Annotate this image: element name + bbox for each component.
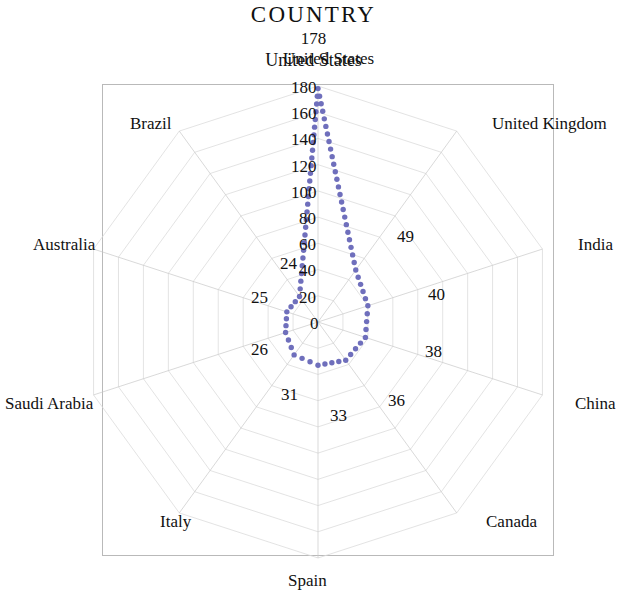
radial-tick-label: 160: [291, 105, 317, 122]
data-point-dot: [325, 131, 330, 136]
data-point-dot: [293, 299, 298, 304]
data-value-label: 49: [397, 228, 414, 245]
data-point-dot: [365, 311, 370, 316]
data-point-dot: [315, 363, 320, 368]
radial-tick-label: 180: [291, 79, 317, 96]
axis-category-label: Spain: [288, 572, 327, 589]
data-point-dot: [326, 139, 331, 144]
radial-tick-label: 40: [299, 262, 316, 279]
axis-category-label: Brazil: [130, 115, 172, 132]
radial-tick-label: 120: [291, 158, 317, 175]
data-point-dot: [355, 274, 360, 279]
data-point-dot: [353, 346, 358, 351]
data-point-dot: [360, 289, 365, 294]
data-point-dot: [343, 357, 348, 362]
radial-tick-label: 140: [291, 131, 317, 148]
radial-tick-label: 20: [299, 289, 316, 306]
axis-category-label: Australia: [33, 236, 95, 253]
radial-tick-label: 60: [299, 236, 316, 253]
data-value-label: 24: [280, 255, 297, 272]
data-point-dot: [363, 327, 368, 332]
data-point-dot: [334, 177, 339, 182]
axis-category-label: Saudi Arabia: [5, 395, 93, 412]
data-point-dot: [350, 252, 355, 257]
data-point-dot: [307, 359, 312, 364]
data-point-dot: [329, 154, 334, 159]
data-point-dot: [348, 352, 353, 357]
data-point-dot: [353, 267, 358, 272]
data-value-label: 25: [251, 289, 268, 306]
data-point-dot: [283, 330, 288, 335]
data-point-dot: [284, 309, 289, 314]
axis-spoke: [179, 322, 318, 513]
data-point-dot: [342, 214, 347, 219]
axis-category-label: United Kingdom: [492, 115, 607, 132]
radar-chart: COUNTRY 178 United States United StatesU…: [0, 0, 627, 598]
data-point-dot: [331, 162, 336, 167]
data-value-label: 31: [281, 386, 298, 403]
data-point-dot: [322, 361, 327, 366]
data-value-label: 26: [251, 341, 268, 358]
axis-category-label: China: [575, 395, 616, 412]
data-point-dot: [289, 345, 294, 350]
data-point-dot: [344, 222, 349, 227]
axis-category-label: India: [578, 236, 613, 253]
radial-tick-label: 100: [291, 184, 317, 201]
data-point-dot: [329, 360, 334, 365]
data-point-dot: [358, 340, 363, 345]
data-value-label: 33: [330, 407, 347, 424]
data-point-dot: [363, 296, 368, 301]
data-series-dotted-line: [283, 86, 371, 368]
data-point-dot: [347, 237, 352, 242]
data-point-dot: [337, 192, 342, 197]
data-point-dot: [333, 169, 338, 174]
axis-category-label: Italy: [160, 513, 191, 530]
data-point-dot: [305, 201, 310, 206]
data-point-dot: [336, 359, 341, 364]
data-point-dot: [351, 260, 356, 265]
axis-category-label: Canada: [486, 513, 537, 530]
data-point-dot: [291, 352, 296, 357]
data-point-dot: [300, 255, 305, 260]
data-point-dot: [339, 199, 344, 204]
data-point-dot: [299, 356, 304, 361]
data-value-label: 36: [388, 392, 405, 409]
data-point-dot: [328, 146, 333, 151]
data-point-dot: [336, 184, 341, 189]
data-point-dot: [358, 282, 363, 287]
data-point-dot: [345, 230, 350, 235]
data-point-dot: [340, 207, 345, 212]
radial-tick-label: 0: [310, 315, 319, 332]
data-point-dot: [320, 109, 325, 114]
data-point-dot: [364, 319, 369, 324]
data-point-dot: [284, 316, 289, 321]
data-point-dot: [323, 124, 328, 129]
data-point-dot: [286, 337, 291, 342]
axis-category-label: United States: [283, 50, 374, 67]
radial-tick-label: 80: [299, 210, 316, 227]
data-point-dot: [288, 304, 293, 309]
data-point-dot: [365, 303, 370, 308]
data-point-dot: [363, 335, 368, 340]
data-point-dot: [283, 323, 288, 328]
data-value-label: 38: [425, 343, 442, 360]
data-point-dot: [348, 245, 353, 250]
data-point-dot: [322, 116, 327, 121]
data-value-label: 40: [428, 286, 445, 303]
